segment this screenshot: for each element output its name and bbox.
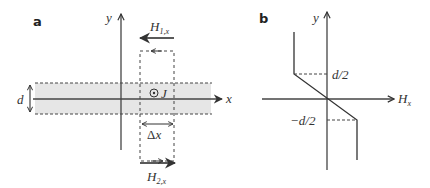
panel-b-label: b [259,11,268,26]
lower-mark-label: −d/2 [290,113,316,128]
y-axis-label-b: y [311,10,319,25]
field-profile-curve [294,32,357,160]
panel-a: a x y d J H1,x Δx [17,10,232,186]
figure-canvas: a x y d J H1,x Δx [0,0,430,188]
current-dot [153,92,155,94]
y-axis-label: y [104,10,112,25]
x-axis-label: x [225,91,232,106]
panel-b: b y Hx d/2 −d/2 [259,10,411,170]
upper-mark-label: d/2 [332,67,349,82]
width-label: Δx [147,127,161,142]
panel-a-label: a [33,14,42,29]
field-h1-label: H1,x [149,19,169,36]
field-h2-label: H2,x [146,169,166,186]
thickness-label: d [17,92,24,107]
hx-axis-label: Hx [397,91,411,108]
